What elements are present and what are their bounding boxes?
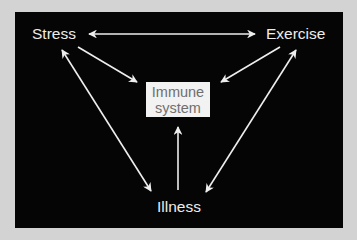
- arrow-stress-immune: [78, 47, 137, 82]
- node-exercise: Exercise: [266, 26, 325, 42]
- node-immune-system: Immune system: [146, 82, 210, 117]
- arrow-stress-illness: [62, 50, 151, 191]
- node-illness: Illness: [157, 199, 201, 215]
- arrow-exercise-immune: [221, 47, 280, 82]
- arrow-exercise-illness: [206, 50, 296, 192]
- immune-line-1: Immune: [146, 84, 210, 100]
- node-stress: Stress: [32, 26, 76, 42]
- immune-line-2: system: [146, 100, 210, 116]
